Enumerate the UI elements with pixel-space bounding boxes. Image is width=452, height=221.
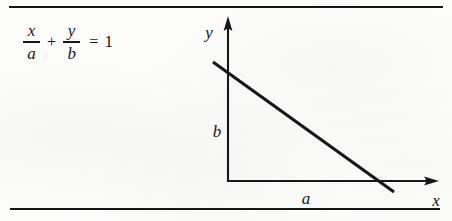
fraction-denominator-a: a: [24, 43, 39, 62]
fraction-x-over-a: x a: [23, 22, 40, 62]
x-axis-label: x: [431, 191, 440, 210]
coordinate-diagram: y x b a: [196, 8, 452, 213]
plus-operator: +: [41, 33, 62, 51]
fraction-y-over-b: y b: [63, 22, 80, 62]
equals-operator: =: [81, 33, 104, 51]
figure-page: x a + y b = 1 y x: [0, 0, 452, 221]
fraction-numerator-y: y: [65, 22, 79, 41]
y-intercept-label-b: b: [213, 122, 222, 141]
fraction-numerator-x: x: [25, 22, 39, 41]
equation-right-hand-side: 1: [104, 32, 113, 52]
intercept-line: [213, 62, 394, 192]
x-intercept-label-a: a: [302, 189, 311, 208]
intercept-form-equation: x a + y b = 1: [22, 22, 113, 62]
fraction-denominator-b: b: [64, 43, 79, 62]
y-axis-label: y: [203, 23, 213, 42]
